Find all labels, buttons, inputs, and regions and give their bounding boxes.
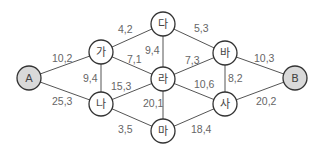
node-label: 다 [158,18,168,31]
edge-weight-label: 15,3 [111,80,132,92]
edge-weight-label: 10,2 [52,52,73,64]
node-label: 가 [96,46,106,59]
edge-weight-label: 18,4 [191,123,212,135]
weighted-graph-diagram: 10,225,34,27,19,415,33,59,420,15,37,310,… [0,0,319,155]
edge-weight-label: 10,6 [194,78,215,90]
node-da: 다 [151,12,175,36]
node-ga: 가 [89,40,113,64]
node-na: 나 [89,92,113,116]
edge-weight-label: 10,3 [254,52,275,64]
node-A: A [17,66,41,90]
edge-weight-label: 9,4 [145,44,160,56]
edge-weight-label: 4,2 [118,23,133,35]
node-label: 라 [158,73,168,86]
node-label: 바 [220,47,230,60]
edge-weight-label: 20,1 [143,97,164,109]
node-ba: 바 [213,41,237,65]
edge-weight-label: 8,2 [228,72,243,84]
edge-weight-label: 20,2 [256,95,277,107]
edge-weight-label: 5,3 [194,22,209,34]
edge-weight-label: 25,3 [52,95,73,107]
node-ma: 마 [151,119,175,143]
node-ra: 라 [151,67,175,91]
node-label: A [25,72,33,85]
node-label: 사 [220,98,230,111]
edge-weight-label: 9,4 [83,72,98,84]
edge-weight-label: 3,5 [118,123,133,135]
node-B: B [283,66,307,90]
node-label: 마 [158,125,168,138]
node-sa: 사 [213,92,237,116]
edge-weight-label: 7,1 [127,53,142,65]
nodes-layer: A가나다라마바사B [17,12,307,143]
node-label: 나 [96,98,106,111]
edge-weight-label: 7,3 [185,54,200,66]
node-label: B [291,72,299,85]
